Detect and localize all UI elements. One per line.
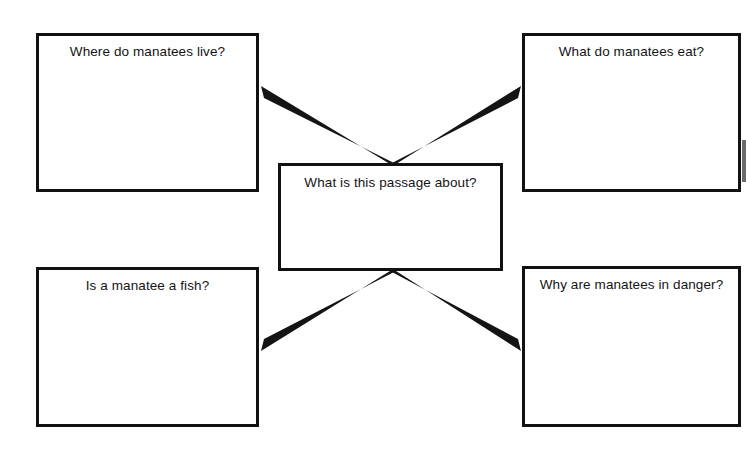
connector-center-to-top-right [390,86,521,164]
question-box-bottom-left[interactable]: Is a manatee a fish? [36,267,259,427]
question-box-center-label: What is this passage about? [281,175,500,191]
connector-center-to-bottom-right [390,271,521,351]
connector-center-to-bottom-left [261,271,396,351]
page-scan-artifact [742,140,746,182]
question-box-bottom-left-label: Is a manatee a fish? [39,278,256,294]
worksheet-canvas: Where do manatees live? What do manatees… [0,0,746,454]
question-box-top-right-label: What do manatees eat? [525,44,738,60]
question-box-bottom-right-label: Why are manatees in danger? [525,277,738,293]
question-box-center[interactable]: What is this passage about? [278,163,503,271]
question-box-top-left-label: Where do manatees live? [39,44,256,60]
question-box-top-left[interactable]: Where do manatees live? [36,33,259,192]
question-box-top-right[interactable]: What do manatees eat? [522,33,741,192]
connector-center-to-top-left [261,86,396,164]
question-box-bottom-right[interactable]: Why are manatees in danger? [522,266,741,427]
